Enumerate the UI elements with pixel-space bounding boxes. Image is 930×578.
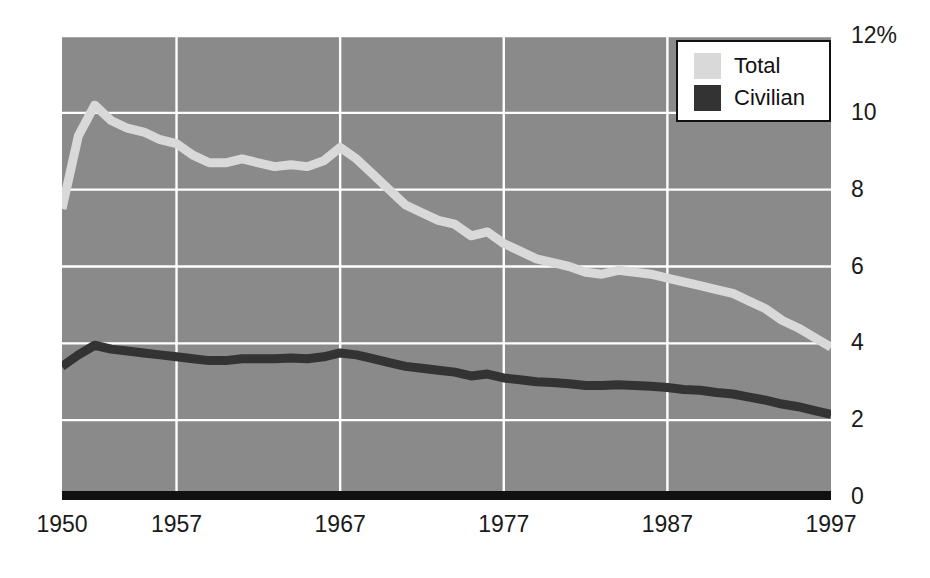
legend-entry-total: Total xyxy=(694,51,829,81)
y-tick-label: 12% xyxy=(851,24,897,47)
x-tick-label: 1987 xyxy=(642,513,693,536)
x-tick-label: 1957 xyxy=(151,513,202,536)
chart-legend: Total Civilian xyxy=(676,40,831,122)
legend-swatch-total xyxy=(694,53,721,79)
y-tick-label: 4 xyxy=(851,331,864,354)
y-tick-label: 10 xyxy=(851,101,877,124)
x-tick-label: 1997 xyxy=(805,513,856,536)
x-tick-label: 1950 xyxy=(36,513,87,536)
chart-figure: 024681012% 195019571967197719871997 Tota… xyxy=(0,0,930,578)
legend-entry-civilian: Civilian xyxy=(694,83,829,113)
y-tick-label: 6 xyxy=(851,255,864,278)
y-tick-label: 0 xyxy=(851,485,864,508)
x-axis-line xyxy=(62,491,831,500)
y-tick-label: 8 xyxy=(851,178,864,201)
y-tick-label: 2 xyxy=(851,408,864,431)
x-tick-label: 1967 xyxy=(315,513,366,536)
legend-swatch-civilian xyxy=(694,85,721,111)
legend-label-total: Total xyxy=(734,55,780,77)
legend-label-civilian: Civilian xyxy=(734,87,805,109)
x-tick-label: 1977 xyxy=(478,513,529,536)
